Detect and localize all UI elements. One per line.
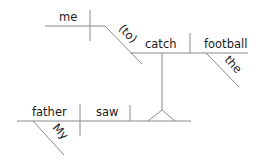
pedestal-base	[148, 110, 175, 121]
word-father: father	[32, 105, 67, 119]
word-saw: saw	[96, 105, 118, 119]
word-catch: catch	[145, 37, 177, 51]
word-football: football	[204, 37, 247, 51]
word-me: me	[59, 10, 77, 24]
sentence-diagram: me (to) catch football the father saw My	[0, 0, 261, 164]
word-to: (to)	[116, 21, 140, 45]
word-my: My	[50, 121, 72, 143]
